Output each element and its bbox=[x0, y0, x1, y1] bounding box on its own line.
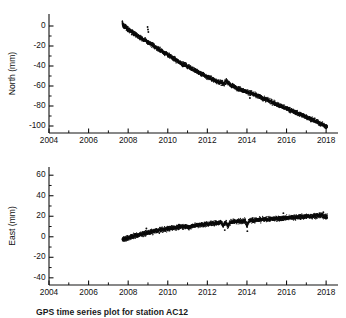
y-tick-label: -40 bbox=[34, 272, 46, 282]
y-tick-label: -40 bbox=[34, 60, 46, 70]
x-tick-label: 2008 bbox=[119, 287, 138, 297]
y-axis-title: North (mm) bbox=[7, 52, 17, 96]
y-tick-label: 0 bbox=[41, 20, 46, 30]
x-tick-label: 2006 bbox=[79, 287, 98, 297]
y-tick-label: -20 bbox=[34, 251, 46, 261]
y-axis-title: East (mm) bbox=[7, 206, 17, 246]
x-tick-label: 2018 bbox=[317, 287, 336, 297]
data-points bbox=[122, 20, 328, 129]
x-tick-label: 2014 bbox=[238, 135, 257, 145]
y-tick-label: -100 bbox=[29, 120, 46, 130]
x-tick-label: 2016 bbox=[277, 135, 296, 145]
figure-caption: GPS time series plot for station AC12 bbox=[36, 306, 336, 318]
east-component-panel: 6040200-20-40200420062008201020122014201… bbox=[0, 157, 346, 307]
x-tick-label: 2004 bbox=[40, 287, 59, 297]
y-tick-label: 20 bbox=[36, 210, 46, 220]
y-tick-label: 60 bbox=[36, 169, 46, 179]
north-component-panel: 0-20-40-60-80-10020042006200820102012201… bbox=[0, 2, 346, 154]
data-points bbox=[122, 211, 328, 242]
y-tick-label: 0 bbox=[41, 231, 46, 241]
x-tick-label: 2014 bbox=[238, 287, 257, 297]
north-plot-area: 0-20-40-60-80-10020042006200820102012201… bbox=[0, 2, 346, 154]
east-plot-area: 6040200-20-40200420062008201020122014201… bbox=[0, 157, 346, 307]
gps-time-series-figure: 0-20-40-60-80-10020042006200820102012201… bbox=[0, 0, 346, 318]
y-tick-label: 40 bbox=[36, 190, 46, 200]
x-tick-label: 2010 bbox=[159, 135, 178, 145]
x-tick-label: 2012 bbox=[198, 287, 217, 297]
x-tick-label: 2016 bbox=[277, 287, 296, 297]
x-tick-label: 2006 bbox=[79, 135, 98, 145]
x-tick-label: 2008 bbox=[119, 135, 138, 145]
x-tick-label: 2004 bbox=[40, 135, 59, 145]
x-tick-label: 2010 bbox=[159, 287, 178, 297]
y-tick-label: -60 bbox=[34, 80, 46, 90]
y-tick-label: -80 bbox=[34, 100, 46, 110]
y-tick-label: -20 bbox=[34, 40, 46, 50]
x-tick-label: 2012 bbox=[198, 135, 217, 145]
x-tick-label: 2018 bbox=[317, 135, 336, 145]
